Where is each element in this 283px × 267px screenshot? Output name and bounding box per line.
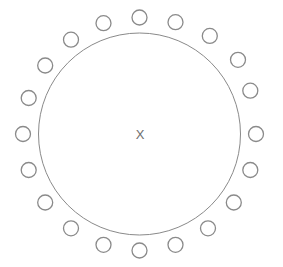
ring-diagram: X: [0, 0, 283, 267]
diagram-canvas: X: [0, 0, 283, 267]
center-label: X: [136, 127, 145, 142]
